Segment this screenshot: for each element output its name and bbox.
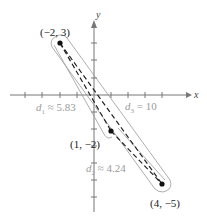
y-axis-label: y: [96, 10, 100, 20]
diagram-graphics: [0, 0, 207, 219]
point-label-a: (−2, 3): [40, 27, 70, 38]
point-a: [57, 40, 62, 45]
point-label-c: (4, −5): [150, 198, 180, 209]
x-axis-label: x: [194, 90, 198, 100]
point-b: [108, 128, 113, 133]
point-c: [159, 181, 164, 186]
y-axis-arrow-icon: [91, 20, 97, 28]
distance-label-d1: d1 ≈ 5.83: [36, 102, 76, 116]
distance-label-d3: d3 = 10: [125, 101, 157, 115]
distance-diagram: y x (−2, 3) (1, −2) (4, −5) d1 ≈ 5.83 d3…: [0, 0, 207, 219]
y-axis: [91, 26, 97, 212]
point-label-b: (1, −2): [70, 139, 100, 150]
distance-label-d2: d2 ≈ 4.24: [86, 163, 126, 177]
x-axis-arrow-icon: [186, 92, 192, 98]
